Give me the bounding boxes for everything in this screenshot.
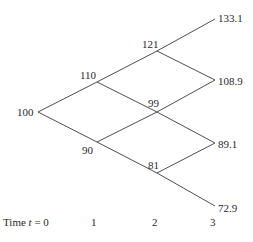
node-t3-d: 89.1 bbox=[218, 138, 237, 150]
time-tick-1: 1 bbox=[91, 216, 97, 228]
node-t3-u: 108.9 bbox=[218, 75, 243, 87]
node-t1-up: 110 bbox=[80, 69, 96, 81]
edge-81-72 bbox=[157, 173, 215, 206]
node-t2-mid: 99 bbox=[148, 97, 159, 109]
node-t3-uu: 133.1 bbox=[218, 12, 243, 24]
node-t3-dd: 72.9 bbox=[218, 202, 237, 214]
edge-81-89 bbox=[157, 143, 215, 173]
edge-99-108 bbox=[157, 80, 215, 112]
time-axis-label: Time t = 0 bbox=[3, 216, 49, 228]
edge-110-121 bbox=[97, 51, 157, 82]
edge-121-108 bbox=[157, 51, 215, 80]
tree-edges bbox=[0, 0, 253, 242]
edge-100-90 bbox=[38, 112, 97, 142]
time-word: Time bbox=[3, 216, 29, 228]
node-t2-down: 81 bbox=[148, 159, 159, 171]
time-tick-3: 3 bbox=[210, 216, 216, 228]
time-zero: = 0 bbox=[32, 216, 49, 228]
node-t2-up: 121 bbox=[142, 38, 159, 50]
edge-90-99 bbox=[97, 112, 157, 142]
edge-121-133 bbox=[157, 19, 215, 51]
edge-99-89 bbox=[157, 112, 215, 143]
node-t0-100: 100 bbox=[17, 106, 34, 118]
time-tick-2: 2 bbox=[152, 216, 158, 228]
node-t1-down: 90 bbox=[82, 144, 93, 156]
edge-100-110 bbox=[38, 82, 97, 112]
